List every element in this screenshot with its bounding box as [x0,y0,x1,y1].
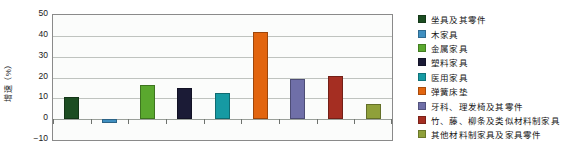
y-tick-label: 50 [39,9,48,17]
x-tick [128,119,129,124]
legend-item[interactable]: 医用家具 [418,70,568,84]
x-tick [53,119,54,124]
x-tick [241,119,242,124]
legend: 坐具及其零件木家具金属家具塑料家具医用家具弹簧床垫牙科、理发椅及其零件竹、藤、柳… [418,12,568,142]
legend-item[interactable]: 金属家具 [418,41,568,55]
y-tick-label: 20 [39,72,48,80]
bar [366,104,381,120]
y-tick-label: 0 [43,113,48,121]
y-axis-tick-labels: 50403020100−10 [18,12,50,134]
bar [328,76,343,119]
y-tick-label: −10 [34,134,48,142]
legend-color-swatch [418,15,426,23]
bar [215,93,230,119]
bar [253,32,268,120]
y-axis-title: 增速（%） [2,46,13,116]
legend-item[interactable]: 塑料家具 [418,55,568,69]
bar [64,97,79,119]
legend-label: 牙科、理发椅及其零件 [431,100,523,112]
y-tick-label: 10 [39,92,48,100]
bar [140,85,155,119]
legend-color-swatch [418,30,426,38]
plot-area [52,14,393,141]
x-tick [91,119,92,124]
legend-item[interactable]: 牙科、理发椅及其零件 [418,98,568,112]
legend-label: 其他材料制家具及家具零件 [431,128,541,140]
legend-color-swatch [418,87,426,95]
bar-chart-figure: 增速（%） 50403020100−10 坐具及其零件木家具金属家具塑料家具医用… [0,0,570,160]
legend-label: 竹、藤、柳条及类似材料制家具 [431,114,560,126]
legend-item[interactable]: 其他材料制家具及家具零件 [418,127,568,141]
legend-item[interactable]: 弹簧床垫 [418,84,568,98]
legend-label: 弹簧床垫 [431,85,468,97]
legend-label: 坐具及其零件 [431,13,486,25]
legend-color-swatch [418,44,426,52]
legend-color-swatch [418,73,426,81]
legend-color-swatch [418,58,426,66]
legend-color-swatch [418,116,426,124]
legend-color-swatch [418,130,426,138]
bar [177,88,192,119]
y-tick-label: 30 [39,51,48,59]
legend-label: 金属家具 [431,42,468,54]
x-tick [204,119,205,124]
legend-color-swatch [418,102,426,110]
legend-label: 塑料家具 [431,56,468,68]
y-tick-label: 40 [39,30,48,38]
legend-item[interactable]: 坐具及其零件 [418,12,568,26]
x-tick [391,119,392,124]
legend-item[interactable]: 木家具 [418,26,568,40]
x-tick [317,119,318,124]
x-axis-ticks [53,119,392,124]
bar [290,79,305,120]
x-tick [354,119,355,124]
x-tick [279,119,280,124]
legend-label: 医用家具 [431,71,468,83]
x-tick [166,119,167,124]
legend-item[interactable]: 竹、藤、柳条及类似材料制家具 [418,113,568,127]
legend-label: 木家具 [431,28,459,40]
